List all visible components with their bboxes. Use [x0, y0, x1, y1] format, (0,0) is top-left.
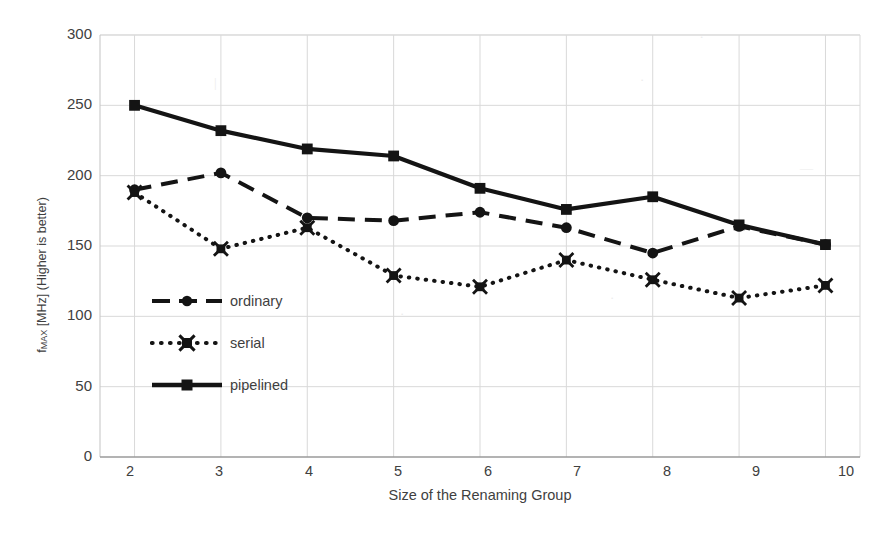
data-point-marker: [475, 183, 486, 194]
legend-label-pipelined: pipelined: [230, 377, 288, 393]
dotted-star-key: [150, 334, 224, 352]
legend-item-ordinary[interactable]: ordinary: [150, 280, 350, 322]
data-point-marker: [388, 215, 399, 226]
data-point-marker: [475, 207, 486, 218]
data-point-marker: [647, 248, 658, 259]
legend: ordinary serial pipelin: [150, 280, 350, 406]
data-point-marker: [216, 125, 227, 136]
dashed-circle-key: [150, 292, 224, 310]
solid-square-key: [150, 376, 224, 394]
data-point-marker: [388, 151, 399, 162]
chart-figure: . | · — · · 300 250 200 150 100 50 0 2 3…: [0, 0, 894, 537]
legend-label-serial: serial: [230, 335, 265, 351]
legend-label-ordinary: ordinary: [230, 293, 282, 309]
data-point-marker: [561, 204, 572, 215]
legend-item-serial[interactable]: serial: [150, 322, 350, 364]
plot-area: [0, 0, 894, 537]
legend-item-pipelined[interactable]: pipelined: [150, 364, 350, 406]
data-point-marker: [647, 191, 658, 202]
data-point-marker: [302, 212, 313, 223]
data-point-marker: [734, 220, 745, 231]
data-point-marker: [216, 167, 227, 178]
data-point-marker: [302, 144, 313, 155]
data-point-marker: [129, 100, 140, 111]
data-point-marker: [820, 239, 831, 250]
data-point-marker: [561, 222, 572, 233]
